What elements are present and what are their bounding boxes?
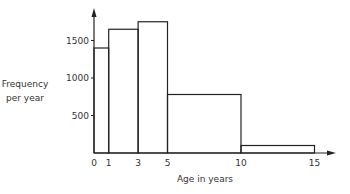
histogram-bar-10-15 — [241, 146, 315, 154]
x-ticks: 01351015 — [91, 158, 320, 168]
x-tick-label: 0 — [91, 158, 97, 168]
histogram-bar-5-10 — [168, 95, 242, 154]
axes — [92, 8, 337, 156]
y-axis-label-line2: per year — [6, 93, 44, 103]
histogram-bar-3-5 — [138, 22, 167, 153]
x-axis-arrow-icon — [327, 151, 336, 156]
x-axis-label: Age in years — [177, 174, 233, 184]
x-tick-label: 1 — [106, 158, 112, 168]
histogram-bar-0-1 — [94, 48, 109, 153]
y-axis-arrow-icon — [92, 8, 97, 17]
histogram-bar-1-3 — [109, 29, 138, 153]
x-tick-label: 3 — [135, 158, 141, 168]
histogram-bars — [94, 22, 315, 153]
y-axis-label-line1: Frequency — [2, 79, 49, 89]
y-tick-label: 1500 — [66, 36, 89, 46]
y-tick-label: 500 — [72, 111, 89, 121]
y-ticks: 50010001500 — [66, 36, 94, 121]
x-tick-label: 10 — [235, 158, 247, 168]
y-tick-label: 1000 — [66, 73, 89, 83]
histogram-chart: 50010001500 01351015 Frequency per year … — [0, 0, 350, 194]
x-tick-label: 15 — [309, 158, 320, 168]
x-tick-label: 5 — [165, 158, 171, 168]
